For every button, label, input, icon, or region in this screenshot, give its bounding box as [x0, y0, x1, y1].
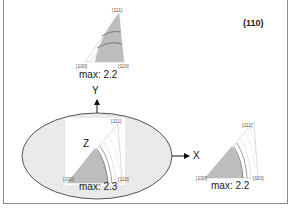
y-axis-label: Y — [92, 86, 99, 96]
pf-x-label-100: [100] — [196, 176, 207, 181]
pf-y-label-111: [111] — [112, 8, 122, 13]
pole-figure-y — [85, 13, 124, 62]
pf-y-max-label: max: 2.2 — [79, 70, 117, 80]
pf-z-label-111: [111] — [111, 119, 121, 124]
pf-y-label-110: [110] — [118, 64, 129, 69]
pf-z-label-110: [110] — [118, 177, 129, 182]
pf-x-label-111: [111] — [242, 123, 252, 128]
pole-figure-z — [65, 118, 125, 185]
x-axis-label: X — [193, 151, 200, 161]
pf-x-label-110: [110] — [253, 176, 264, 181]
pf-z-max-label: max: 2.3 — [79, 182, 117, 192]
pole-figure-x — [205, 122, 258, 178]
z-axis-label: Z — [83, 139, 89, 149]
plane-label: (110) — [243, 19, 264, 28]
pf-x-max-label: max: 2.2 — [211, 181, 249, 191]
diagram-canvas — [0, 0, 293, 208]
pf-z-label-100: [100] — [63, 177, 74, 182]
